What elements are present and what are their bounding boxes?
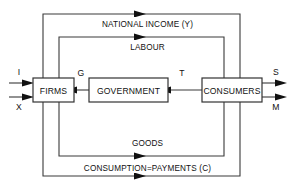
injection-arrow-investment	[9, 79, 34, 86]
node-consumers[interactable]: CONSUMERS	[202, 78, 262, 102]
band-label-national-income: NATIONAL INCOME (Y)	[102, 20, 193, 29]
leakage-label-imports: M	[272, 102, 279, 112]
node-firms[interactable]: FIRMS	[33, 78, 74, 102]
band-label-consumption-payments: CONSUMPTION=PAYMENTS (C)	[84, 164, 211, 173]
flow-label-taxes: T	[179, 68, 185, 78]
consumption-payments-arrowhead	[134, 172, 146, 179]
node-government[interactable]: GOVERNMENT	[89, 78, 168, 102]
leakage-label-savings: S	[273, 67, 279, 77]
band-label-labour: LABOUR	[130, 43, 165, 52]
node-firms-label: FIRMS	[40, 86, 68, 96]
injection-label-exports: X	[16, 102, 22, 112]
injection-arrow-exports	[9, 93, 34, 100]
band-label-goods: GOODS	[132, 139, 164, 148]
circular-flow-diagram: FIRMS GOVERNMENT CONSUMERS NATIONAL INCO…	[0, 0, 297, 189]
node-government-label: GOVERNMENT	[97, 86, 161, 96]
injection-label-investment: I	[18, 67, 21, 77]
diagram-canvas: FIRMS GOVERNMENT CONSUMERS NATIONAL INCO…	[0, 0, 297, 189]
flow-label-government-spending: G	[78, 68, 85, 78]
labour-arrowhead	[134, 33, 146, 40]
national-income-arrowhead	[134, 10, 146, 17]
leakage-arrow-savings	[262, 79, 287, 86]
goods-arrowhead	[134, 152, 146, 159]
node-consumers-label: CONSUMERS	[203, 86, 260, 96]
leakage-arrow-imports	[262, 93, 287, 100]
